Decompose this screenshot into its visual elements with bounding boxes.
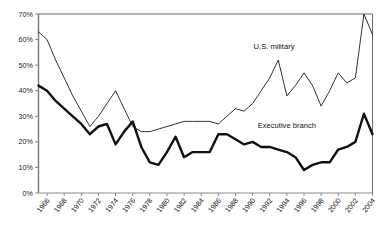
chart-container: 0%10%20%30%40%50%60%70%19661968197019721… xyxy=(0,0,391,249)
y-axis-tick-label: 10% xyxy=(19,163,34,172)
x-axis-tick-label: 1984 xyxy=(189,196,206,214)
x-axis-tick-label: 1974 xyxy=(103,196,120,214)
y-axis-tick-label: 50% xyxy=(19,61,34,70)
x-axis-tick-label: 1988 xyxy=(223,196,240,214)
x-axis-tick-label: 2002 xyxy=(343,196,360,214)
x-axis-tick-label: 1998 xyxy=(309,196,326,214)
x-axis-tick-label: 2004 xyxy=(360,196,377,214)
x-axis-tick-label: 1972 xyxy=(86,196,103,214)
x-axis-tick-label: 1982 xyxy=(172,196,189,214)
series-label-u-s-military: U.S. military xyxy=(254,42,295,51)
x-axis-tick-label: 1966 xyxy=(35,196,52,214)
y-axis-tick-label: 20% xyxy=(19,137,34,146)
x-axis-tick-label: 1990 xyxy=(240,196,257,214)
x-axis-tick-label: 1994 xyxy=(274,196,291,214)
x-axis-tick-label: 1986 xyxy=(206,196,223,214)
x-axis-tick-label: 1968 xyxy=(52,196,69,214)
x-axis-tick-label: 1996 xyxy=(292,196,309,214)
x-axis-tick-label: 1980 xyxy=(155,196,172,214)
y-axis-tick-label: 0% xyxy=(23,189,34,198)
line-chart: 0%10%20%30%40%50%60%70%19661968197019721… xyxy=(0,0,391,249)
series-line-executive-branch xyxy=(39,86,373,170)
y-axis-tick-label: 60% xyxy=(19,35,34,44)
y-axis-tick-label: 70% xyxy=(19,10,34,19)
series-line-u-s-military xyxy=(39,14,373,132)
x-axis-tick-label: 1970 xyxy=(69,196,86,214)
x-axis-tick-label: 1976 xyxy=(120,196,137,214)
x-axis-tick-label: 2000 xyxy=(326,196,343,214)
y-axis-tick-label: 30% xyxy=(19,112,34,121)
y-axis-tick-label: 40% xyxy=(19,86,34,95)
x-axis-tick-label: 1992 xyxy=(257,196,274,214)
x-axis-tick-label: 1978 xyxy=(137,196,154,214)
series-label-executive-branch: Executive branch xyxy=(258,121,316,130)
